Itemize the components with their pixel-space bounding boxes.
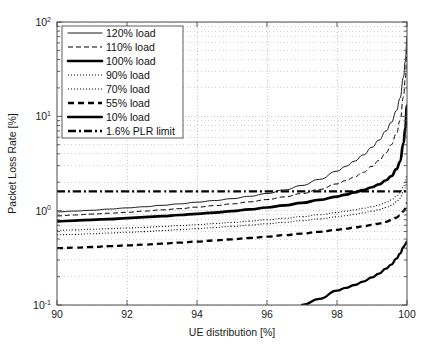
x-tick-label: 100 <box>398 308 416 320</box>
packet-loss-rate-chart: 909294969810010210110010-1UE distributio… <box>0 0 428 354</box>
legend-label: 90% load <box>106 69 150 81</box>
x-tick-label: 94 <box>191 308 203 320</box>
chart-figure: 909294969810010210110010-1UE distributio… <box>0 0 428 354</box>
legend-label: 1.6% PLR limit <box>106 125 175 137</box>
legend-label: 10% load <box>106 111 150 123</box>
legend-label: 70% load <box>106 83 150 95</box>
chart-legend: 120% load110% load100% load90% load70% l… <box>62 26 183 138</box>
x-tick-label: 98 <box>331 308 343 320</box>
y-axis-title: Packet Loss Rate [%] <box>6 113 18 213</box>
x-tick-label: 90 <box>51 308 63 320</box>
legend-label: 55% load <box>106 97 150 109</box>
legend-label: 110% load <box>106 41 155 53</box>
legend-label: 100% load <box>106 55 156 67</box>
x-tick-label: 92 <box>121 308 133 320</box>
x-tick-label: 96 <box>261 308 273 320</box>
legend-label: 120% load <box>106 27 156 39</box>
x-axis-title: UE distribution [%] <box>189 326 275 338</box>
